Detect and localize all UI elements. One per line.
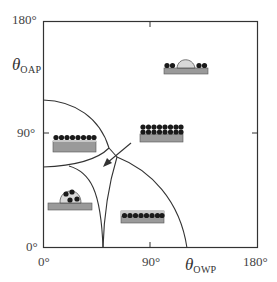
- boundary-center-vertical: [103, 157, 117, 248]
- illustration-lower-right: [121, 211, 165, 223]
- illustration-upper-right: [164, 60, 208, 74]
- transition-arrow-shaft: [107, 143, 131, 163]
- illustration-center-right: [140, 124, 184, 142]
- boundary-right: [117, 157, 187, 248]
- illustration-lower-left: [48, 189, 92, 210]
- illustration-upper-left: [53, 135, 97, 152]
- phase-diagram-plot: [0, 0, 277, 282]
